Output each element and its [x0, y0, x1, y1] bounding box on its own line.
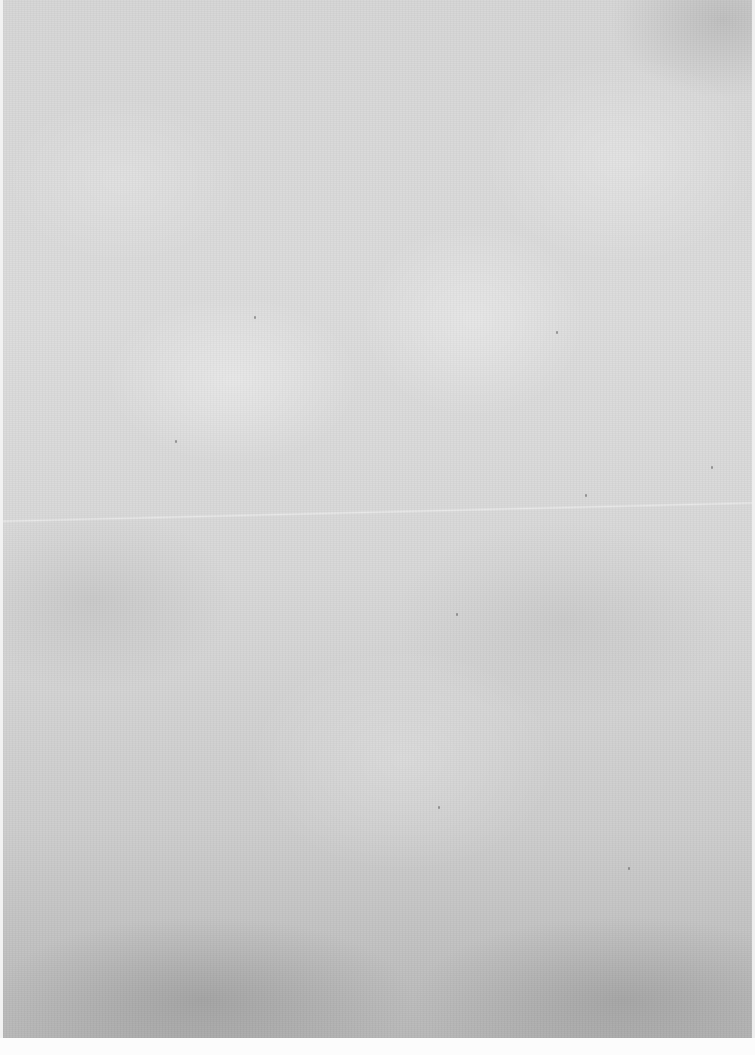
- bottom-margin-strip: [0, 1038, 755, 1055]
- left-edge: [0, 0, 3, 1038]
- paper-texture: [3, 0, 752, 1038]
- paper-speck: [456, 613, 458, 616]
- paper-speck: [711, 466, 713, 469]
- paper-speck: [585, 494, 587, 497]
- paper-speck: [628, 867, 630, 870]
- paper-speck: [175, 440, 177, 443]
- paper-speck: [556, 331, 558, 334]
- paper-page: [0, 0, 755, 1055]
- paper-grain: [3, 0, 752, 1038]
- paper-speck: [254, 316, 256, 319]
- paper-speck: [438, 806, 440, 809]
